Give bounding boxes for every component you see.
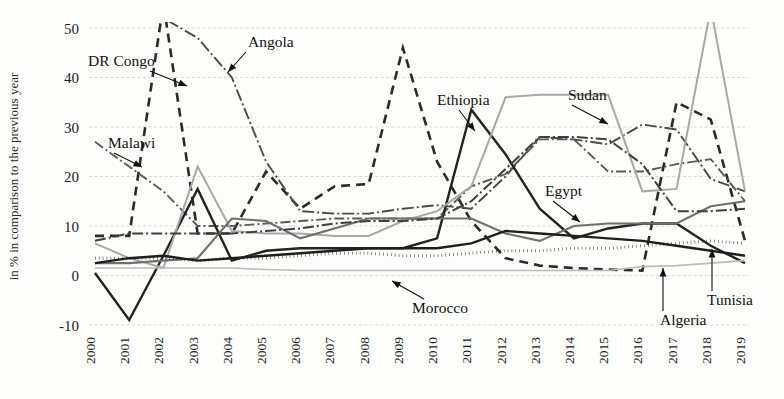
x-tick-label-2014: 2014 bbox=[562, 337, 577, 364]
y-tick-label-40: 40 bbox=[64, 70, 79, 86]
x-tick-label-2017: 2017 bbox=[665, 337, 680, 364]
x-tick-label-2006: 2006 bbox=[288, 337, 303, 364]
annotation-arrowhead-egypt bbox=[571, 214, 580, 222]
x-tick-label-2019: 2019 bbox=[733, 337, 748, 364]
x-tick-label-2013: 2013 bbox=[528, 337, 543, 364]
annotation-arrowhead-dr-congo bbox=[178, 80, 187, 86]
y-tick-label-0: 0 bbox=[72, 268, 80, 284]
line-chart: 50403020100-1020002001200220032004200520… bbox=[0, 0, 784, 399]
series-line-morocco bbox=[95, 261, 745, 271]
chart-container: 50403020100-1020002001200220032004200520… bbox=[0, 0, 784, 399]
x-tick-label-2010: 2010 bbox=[425, 337, 440, 364]
annotation-label-tunisia: Tunisia bbox=[707, 291, 753, 308]
x-tick-label-2007: 2007 bbox=[322, 337, 337, 364]
annotation-label-sudan: Sudan bbox=[568, 86, 607, 103]
y-tick-label-30: 30 bbox=[64, 120, 79, 136]
x-tick-label-2003: 2003 bbox=[186, 337, 201, 364]
x-tick-label-2011: 2011 bbox=[459, 337, 474, 364]
x-tick-label-2008: 2008 bbox=[357, 337, 372, 364]
x-tick-label-2016: 2016 bbox=[630, 337, 645, 364]
y-tick-label-20: 20 bbox=[64, 169, 79, 185]
y-axis-title: in % in comparison to the previous year bbox=[6, 72, 21, 280]
annotation-arrowhead-morocco bbox=[392, 281, 401, 288]
x-tick-label-2009: 2009 bbox=[391, 337, 406, 364]
annotation-label-morocco: Morocco bbox=[412, 299, 468, 316]
annotation-label-dr-congo: DR Congo bbox=[88, 52, 155, 69]
x-tick-label-2004: 2004 bbox=[220, 337, 235, 364]
x-tick-label-2001: 2001 bbox=[117, 337, 132, 364]
annotation-label-algeria: Algeria bbox=[660, 311, 707, 328]
series-group bbox=[95, 0, 745, 320]
x-tick-label-2012: 2012 bbox=[494, 337, 509, 364]
y-tick-label-50: 50 bbox=[64, 21, 79, 37]
series-line-egypt bbox=[95, 201, 745, 263]
series-line-dr-congo bbox=[95, 3, 745, 270]
series-line-ethiopia bbox=[95, 110, 745, 320]
annotation-label-egypt: Egypt bbox=[545, 182, 583, 199]
y-tick-label-10: 10 bbox=[64, 219, 79, 235]
y-tick-label--10: -10 bbox=[59, 318, 79, 334]
annotation-label-angola: Angola bbox=[248, 33, 294, 50]
series-line-sudan bbox=[95, 8, 745, 268]
annotation-arrowhead-algeria bbox=[660, 268, 667, 277]
x-tick-label-2018: 2018 bbox=[699, 337, 714, 364]
annotation-label-malawi: Malawi bbox=[108, 134, 156, 151]
x-tick-label-2005: 2005 bbox=[254, 337, 269, 364]
x-tick-label-2000: 2000 bbox=[83, 337, 98, 364]
x-tick-label-2015: 2015 bbox=[596, 337, 611, 364]
series-line-egypt-dashdot bbox=[95, 137, 745, 241]
annotation-label-ethiopia: Ethiopia bbox=[437, 91, 490, 108]
annotation-arrowhead-sudan bbox=[599, 117, 608, 124]
x-tick-label-2002: 2002 bbox=[151, 337, 166, 364]
